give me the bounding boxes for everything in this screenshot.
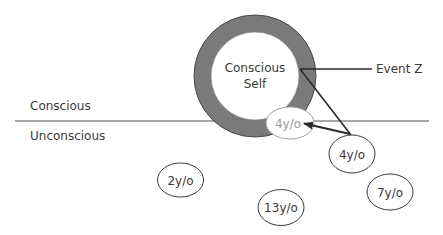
memory-13yo: 13y/o xyxy=(258,190,304,226)
conscious-self-label-line1: Conscious xyxy=(225,61,286,75)
memory-7yo: 7y/o xyxy=(367,174,413,210)
conscious-self-label-line2: Self xyxy=(244,77,267,91)
memory-4yo-surfaced-label: 4y/o xyxy=(275,117,301,131)
memory-4yo: 4y/o xyxy=(329,135,375,173)
memory-2yo: 2y/o xyxy=(158,163,204,197)
memory-7yo-label: 7y/o xyxy=(377,186,403,200)
conscious-region-label: Conscious xyxy=(30,99,91,113)
memory-4yo-surfaced: 4y/o xyxy=(266,107,314,139)
memory-2yo-label: 2y/o xyxy=(167,174,193,188)
memory-13yo-label: 13y/o xyxy=(264,201,298,215)
conscious-unconscious-diagram: Conscious Unconscious Conscious Self Eve… xyxy=(0,0,443,235)
memory-4yo-label: 4y/o xyxy=(339,148,365,162)
event-z-label: Event Z xyxy=(376,62,422,76)
unconscious-region-label: Unconscious xyxy=(30,129,105,143)
